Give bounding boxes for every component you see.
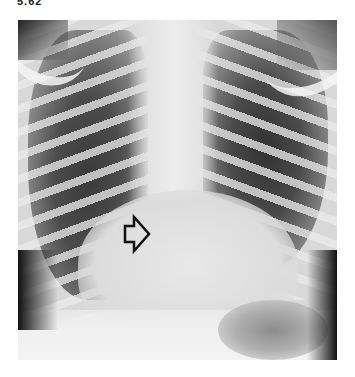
open-arrow-icon	[122, 214, 152, 254]
chest-xray-image	[18, 20, 337, 360]
corner-shadow	[18, 250, 58, 330]
figure-label: 5.62	[17, 0, 42, 7]
corner-shadow	[307, 250, 337, 360]
